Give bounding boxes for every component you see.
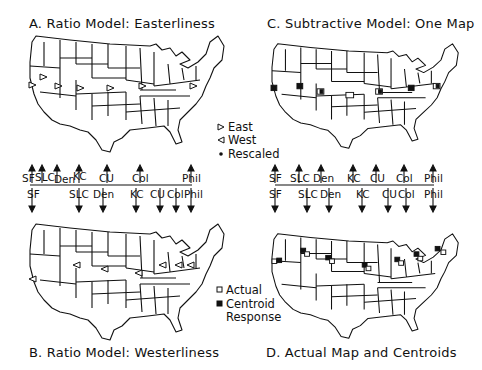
- triangle-left-icon: [218, 137, 224, 143]
- svg-text:SLC: SLC: [35, 171, 55, 183]
- figure-canvas: East West Rescaled Actual Centroid Respo…: [0, 0, 482, 370]
- svg-text:Col: Col: [167, 188, 184, 200]
- svg-text:SLC: SLC: [298, 188, 318, 200]
- svg-text:SLC: SLC: [69, 188, 89, 200]
- svg-text:SF: SF: [22, 172, 35, 184]
- svg-text:KC: KC: [130, 188, 144, 200]
- svg-text:KC: KC: [73, 170, 87, 182]
- svg-text:SF: SF: [269, 172, 282, 184]
- map-c-subtractive: [271, 44, 458, 148]
- svg-text:Phil: Phil: [182, 172, 201, 184]
- svg-text:Phil: Phil: [424, 188, 443, 200]
- svg-text:KC: KC: [356, 188, 370, 200]
- legend-actual: Actual: [226, 283, 262, 297]
- legend-top: East West Rescaled: [218, 120, 279, 161]
- dot-icon: [219, 152, 223, 156]
- svg-text:Col: Col: [396, 172, 413, 184]
- legend-east: East: [228, 120, 253, 134]
- svg-text:Den: Den: [313, 172, 334, 184]
- svg-text:SLC: SLC: [290, 172, 310, 184]
- svg-text:Phil: Phil: [424, 172, 443, 184]
- east-markers: [29, 74, 197, 91]
- legend-rescaled: Rescaled: [228, 147, 279, 161]
- right-band-labels: SF SLC Den KC CU Col Phil SF SLC Den KC …: [269, 172, 443, 200]
- legend-bottom: Actual Centroid Response: [217, 283, 281, 324]
- svg-text:CU: CU: [150, 188, 165, 200]
- open-square-icon: [217, 287, 222, 292]
- svg-text:Den: Den: [93, 188, 114, 200]
- svg-text:Den: Den: [320, 188, 341, 200]
- map-d-actual-centroids: [272, 234, 458, 338]
- svg-text:Col: Col: [398, 188, 415, 200]
- legend-west: West: [228, 133, 257, 147]
- legend-centroid: Centroid: [226, 297, 275, 311]
- svg-text:SF: SF: [27, 188, 40, 200]
- map-b-westerliness: [29, 224, 224, 340]
- triangle-right-icon: [218, 124, 224, 130]
- svg-text:CU: CU: [382, 188, 397, 200]
- map-a-easterliness: [29, 36, 224, 152]
- filled-square-icon: [217, 301, 222, 306]
- svg-text:SF: SF: [269, 188, 282, 200]
- svg-text:CU: CU: [370, 172, 385, 184]
- legend-response: Response: [226, 310, 281, 324]
- svg-text:CU: CU: [99, 172, 114, 184]
- svg-text:Col: Col: [132, 172, 149, 184]
- svg-text:Phil: Phil: [184, 188, 203, 200]
- svg-text:KC: KC: [347, 172, 361, 184]
